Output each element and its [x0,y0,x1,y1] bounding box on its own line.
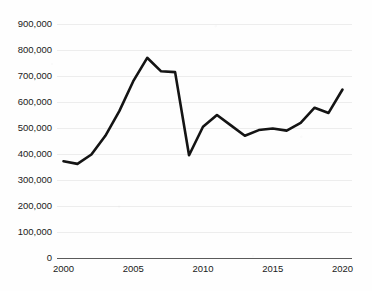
chart-screenshot: 0100,000200,000300,000400,000500,000600,… [0,0,372,291]
x-tick-label-2010: 2010 [192,263,213,274]
x-tick-label-2020: 2020 [332,263,353,274]
x-tick-label-2000: 2000 [53,263,74,274]
x-axis-tick-labels: 20002005201020152020 [53,263,353,274]
y-tick-label-600000: 600,000 [18,96,52,107]
x-tick-label-2005: 2005 [123,263,144,274]
y-tick-label-700000: 700,000 [18,70,52,81]
line-chart: 0100,000200,000300,000400,000500,000600,… [0,0,372,291]
y-tick-label-100000: 100,000 [18,226,52,237]
y-axis-tick-labels: 0100,000200,000300,000400,000500,000600,… [18,18,52,263]
y-tick-label-400000: 400,000 [18,148,52,159]
y-tick-label-0: 0 [47,252,52,263]
y-tick-label-800000: 800,000 [18,44,52,55]
y-tick-label-500000: 500,000 [18,122,52,133]
y-tick-label-300000: 300,000 [18,174,52,185]
x-tick-label-2015: 2015 [262,263,283,274]
y-tick-label-900000: 900,000 [18,18,52,29]
y-tick-label-200000: 200,000 [18,200,52,211]
gridlines-group [57,24,352,232]
data-series-line [64,58,343,164]
